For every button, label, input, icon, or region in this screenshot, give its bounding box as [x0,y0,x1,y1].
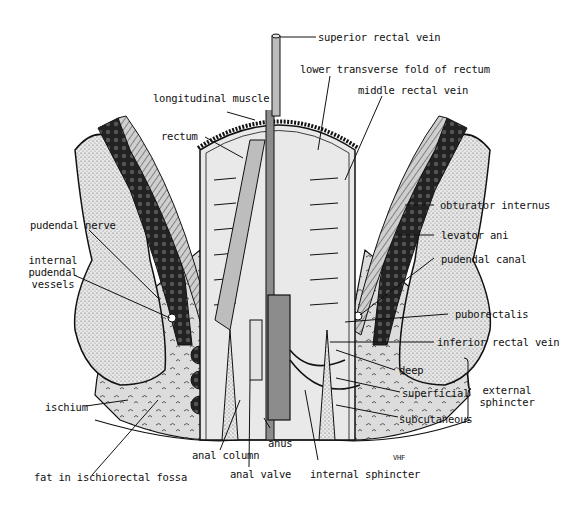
label-lower-transverse-fold: lower transverse fold of rectum [300,63,490,75]
label-puborectalis: puborectalis [455,308,528,320]
label-anal-valve: anal valve [230,468,291,480]
label-rectum: rectum [161,130,198,142]
label-pudendal-nerve: pudendal nerve [30,219,116,231]
label-internal-pudendal-vessels: internal pudendal vessels [28,254,78,290]
label-pudendal-canal: pudendal canal [441,253,527,265]
artist-signature: VHF [393,452,405,464]
label-superficial: superficial [402,387,469,399]
label-external-sphincter: external sphincter [472,384,542,408]
label-anus: anus [268,437,293,449]
label-subcutaneous: subcutaneous [399,413,472,425]
label-middle-rectal-vein: middle rectal vein [358,84,468,96]
label-internal-sphincter: internal sphincter [310,468,420,480]
label-levator-ani: levator ani [441,229,508,241]
label-ischium: ischium [45,401,88,413]
label-superior-rectal-vein: superior rectal vein [318,31,440,43]
label-deep: deep [399,364,424,376]
label-anal-column: anal column [192,449,259,461]
label-longitudinal-muscle: longitudinal muscle [153,92,269,104]
label-inferior-rectal-vein: inferior rectal vein [437,336,559,348]
left-pelvic-wall [75,116,215,440]
label-fat-in-ischiorectal-fossa: fat in ischiorectal fossa [34,471,187,483]
label-obturator-internus: obturator internus [440,199,550,211]
